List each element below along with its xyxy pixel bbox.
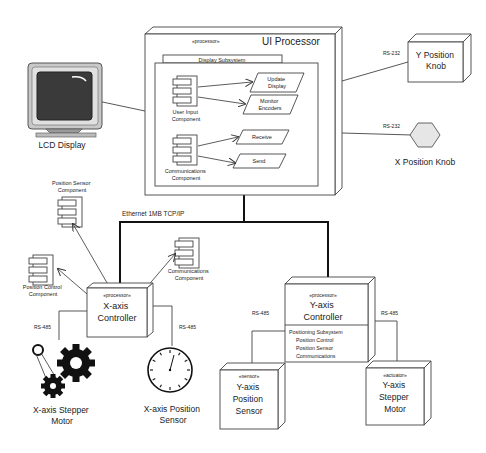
x-knob-link-label: RS-232	[383, 123, 400, 129]
deployment-diagram: Ethernet 1MB TCP/IP «processor» UI Proce…	[0, 0, 486, 453]
x-motor-link	[59, 311, 87, 340]
y-sensor-stereotype: «sensor»	[239, 373, 260, 379]
x-sensor-link-label: RS-485	[179, 324, 196, 330]
ui-communications-component-icon	[173, 135, 197, 165]
gears-icon	[33, 344, 95, 398]
x-position-sensor-label: X-axis Position Sensor	[144, 404, 203, 425]
monitor-encoders-label: Monitor Encoders	[258, 98, 281, 111]
x-stepper-motor-label: X-axis Stepper Motor	[33, 405, 91, 426]
receive-label: Receive	[252, 134, 272, 140]
position-control-component-icon	[29, 255, 53, 285]
position-sensor-component-icon	[58, 197, 82, 227]
x-communications-component-label: Communications Component	[168, 268, 211, 281]
x-position-knob-icon	[410, 123, 440, 147]
update-display-label: Update Display	[267, 76, 286, 89]
lcd-display-icon	[28, 63, 102, 137]
ui-processor-node: «processor» UI Processor Display Subsyst…	[145, 27, 342, 195]
y-knob-link	[342, 62, 408, 81]
x-communications-component-icon	[175, 238, 199, 268]
user-input-component-icon	[173, 76, 197, 106]
x-motor-link-label: RS-485	[34, 324, 51, 330]
y-sensor-link-label: RS-485	[252, 310, 269, 316]
display-subsystem-label: Display Subsystem	[199, 57, 246, 63]
position-control-component-label: Position Control Component	[23, 284, 63, 297]
dial-gauge-icon	[148, 348, 192, 392]
send-label: Send	[253, 158, 266, 164]
y-position-knob-node: Y Position Knob	[408, 34, 471, 82]
y-motor-link-label: RS-485	[381, 310, 398, 316]
x-position-knob-label: X Position Knob	[395, 157, 456, 167]
y-position-sensor-title: Y-axis Position Sensor	[233, 382, 266, 416]
y-controller-stereotype: «processor»	[309, 292, 337, 298]
x-knob-link	[342, 133, 412, 135]
ethernet-bus	[120, 195, 328, 288]
x-axis-controller-node: «processor» X-axis Controller	[87, 283, 153, 337]
ui-processor-title: UI Processor	[262, 36, 320, 47]
ui-processor-stereotype: «processor»	[192, 38, 220, 44]
user-input-component-label: User Input Component	[172, 109, 201, 122]
x-controller-stereotype: «processor»	[103, 292, 131, 298]
bus-label: Ethernet 1MB TCP/IP	[122, 210, 184, 217]
y-motor-stereotype: «actuator»	[383, 372, 407, 378]
lcd-display-label: LCD Display	[38, 140, 86, 150]
y-axis-position-sensor-node: «sensor» Y-axis Position Sensor	[220, 363, 285, 429]
y-axis-controller-node: «processor» Y-axis Controller Positionin…	[285, 277, 375, 362]
y-knob-link-label: RS-232	[383, 50, 400, 56]
y-axis-stepper-motor-node: «actuator» Y-axis Stepper Motor	[366, 361, 431, 425]
position-sensor-component-label: Position Sensor Component	[52, 180, 92, 193]
